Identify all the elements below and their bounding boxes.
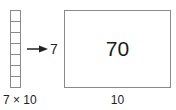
- column-cell: [11, 77, 20, 87]
- right-arrow-icon: [27, 44, 49, 54]
- tall-column-of-cells: [10, 10, 21, 88]
- arrow-label: 7: [50, 41, 58, 57]
- column-cell: [11, 11, 20, 22]
- column-cell: [11, 33, 20, 44]
- area-rectangle: 70: [64, 10, 171, 88]
- column-caption: 7 × 10: [3, 93, 37, 107]
- column-cell: [11, 22, 20, 33]
- column-cell: [11, 44, 20, 55]
- column-cell: [11, 55, 20, 66]
- rectangle-width-caption: 10: [64, 93, 171, 107]
- area-value: 70: [106, 37, 129, 61]
- column-cell: [11, 66, 20, 77]
